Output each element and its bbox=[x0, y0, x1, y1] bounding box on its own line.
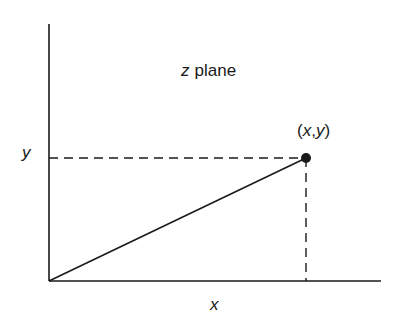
z-plane-diagram: zplane (x,y) y x bbox=[0, 0, 398, 324]
point-x: x bbox=[302, 121, 312, 140]
paren-close: ) bbox=[324, 121, 330, 140]
x-axis-label: x bbox=[209, 295, 219, 314]
plane-title: zplane bbox=[180, 61, 236, 80]
y-axis-label: y bbox=[21, 143, 32, 162]
title-word: plane bbox=[195, 61, 237, 80]
point-marker bbox=[301, 153, 311, 163]
point-label: (x,y) bbox=[297, 121, 330, 140]
vector-line bbox=[49, 158, 306, 281]
title-variable: z bbox=[180, 61, 190, 80]
